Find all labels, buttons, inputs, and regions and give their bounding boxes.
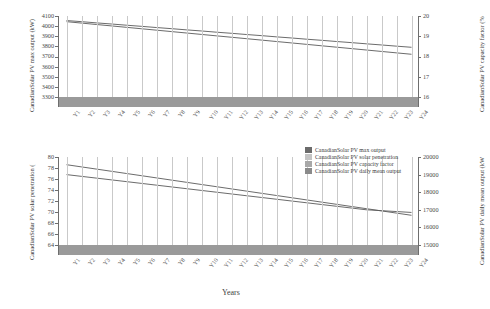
legend-item[interactable]: CanadianSolar PV capacity factor [305, 161, 401, 167]
legend-swatch-icon [305, 161, 312, 167]
x-tick-label: Y23 [402, 257, 413, 269]
x-tick-label: Y1 [71, 257, 80, 266]
x-tick-label: Y22 [387, 109, 398, 121]
grid-line [412, 16, 413, 97]
grid-line [292, 16, 293, 97]
y-tick-label: 74 [48, 187, 54, 193]
y-tick-label: 20 [423, 13, 429, 19]
legend-item[interactable]: CanadianSolar PV daily mean output [305, 168, 401, 174]
grid-line [187, 157, 188, 245]
grid-line [82, 16, 83, 97]
x-tick-label: Y14 [267, 109, 278, 121]
legend-item[interactable]: CanadianSolar PV max output [305, 147, 401, 153]
y-tick-label: 17 [423, 74, 429, 80]
bottom-left-axis-title: CanadianSolar PV solar penetration ( [28, 165, 35, 260]
grid-line [232, 16, 233, 97]
y-tick-label: 4100 [42, 13, 54, 19]
x-tick-label: Y20 [357, 109, 368, 121]
grid-line [157, 16, 158, 97]
x-tick-label: Y21 [372, 109, 383, 121]
grid-line [142, 157, 143, 245]
legend-item[interactable]: CanadianSolar PV solar penetration [305, 154, 401, 160]
x-tick-label: Y3 [101, 257, 110, 266]
x-tick-label: Y11 [222, 257, 233, 269]
y-tick-label: 80 [48, 154, 54, 160]
x-tick-label: Y2 [86, 257, 95, 266]
grid-line [292, 157, 293, 245]
series-line [67, 175, 412, 213]
grid-line [232, 157, 233, 245]
x-tick-label: Y18 [327, 109, 338, 121]
top-series-svg [59, 16, 418, 107]
y-tick-label: 78 [48, 165, 54, 171]
right-axis-spine [418, 157, 419, 255]
x-tick-label: Y7 [161, 109, 170, 118]
x-tick-label: Y22 [387, 257, 398, 269]
x-tick-label: Y5 [131, 257, 140, 266]
top-baseline-band [59, 97, 418, 107]
grid-line [202, 16, 203, 97]
grid-line [112, 16, 113, 97]
y-tick-label: 19 [423, 33, 429, 39]
grid-line [157, 157, 158, 245]
y-tick-label: 3700 [42, 53, 54, 59]
legend-item-label: CanadianSolar PV daily mean output [315, 168, 401, 174]
chart-panel-bottom: CanadianSolar PV solar penetration ( Can… [0, 143, 490, 288]
x-tick-label: Y1 [71, 109, 80, 118]
grid-line [307, 16, 308, 97]
y-tick-label: 16 [423, 94, 429, 100]
grid-line [262, 157, 263, 245]
grid-line [67, 157, 68, 245]
grid-line [322, 16, 323, 97]
y-tick-label: 16000 [423, 224, 438, 230]
y-tick-label: 18000 [423, 189, 438, 195]
y-tick-label: 64 [48, 242, 54, 248]
y-tick-label: 3600 [42, 64, 54, 70]
x-tick-label: Y17 [312, 257, 323, 269]
y-tick-label: 3900 [42, 33, 54, 39]
grid-line [352, 16, 353, 97]
y-tick-label: 66 [48, 231, 54, 237]
y-tick-label: 3300 [42, 94, 54, 100]
x-tick-label: Y16 [297, 109, 308, 121]
x-tick-label: Y8 [176, 109, 185, 118]
y-tick-label: 19000 [423, 172, 438, 178]
grid-line [97, 16, 98, 97]
x-tick-label: Y15 [282, 257, 293, 269]
x-tick-label: Y6 [146, 109, 155, 118]
x-tick-label: Y9 [191, 257, 200, 266]
y-tick-label: 3800 [42, 43, 54, 49]
x-tick-label: Y4 [116, 109, 125, 118]
bottom-baseline-band [59, 245, 418, 255]
x-tick-label: Y21 [372, 257, 383, 269]
grid-line [217, 157, 218, 245]
grid-line [337, 16, 338, 97]
x-tick-label: Y19 [342, 109, 353, 121]
x-tick-label: Y11 [222, 109, 233, 121]
grid-line [247, 157, 248, 245]
y-tick-label: 18 [423, 53, 429, 59]
x-tick-label: Y5 [131, 109, 140, 118]
top-left-axis-title: CanadianSolar PV max output (kW) [28, 19, 35, 112]
bottom-right-axis-title: CanadianSolar PV daily mean output (kW [478, 157, 485, 265]
grid-line [142, 16, 143, 97]
x-tick-label: Y2 [86, 109, 95, 118]
x-tick-label: Y12 [237, 257, 248, 269]
legend-swatch-icon [305, 168, 312, 174]
chart-figure: CanadianSolar PV max output (kW) Canadia… [0, 0, 490, 309]
legend-item-label: CanadianSolar PV capacity factor [315, 161, 394, 167]
chart-legend: CanadianSolar PV max output CanadianSola… [305, 147, 401, 174]
y-tick-label: 72 [48, 198, 54, 204]
x-tick-label: Y23 [402, 109, 413, 121]
x-tick-label: Y10 [207, 109, 218, 121]
right-axis-spine [418, 16, 419, 107]
grid-line [187, 16, 188, 97]
x-tick-label: Y4 [116, 257, 125, 266]
y-tick-label: 17000 [423, 207, 438, 213]
grid-line [172, 157, 173, 245]
y-tick-label: 4000 [42, 23, 54, 29]
y-tick-label: 20000 [423, 154, 438, 160]
grid-line [127, 157, 128, 245]
grid-line [247, 16, 248, 97]
x-tick-label: Y7 [161, 257, 170, 266]
